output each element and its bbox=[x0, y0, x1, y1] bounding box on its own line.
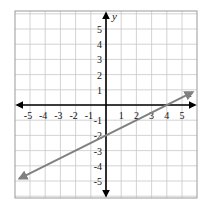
svg-text:5: 5 bbox=[97, 24, 102, 35]
svg-text:4: 4 bbox=[164, 110, 169, 121]
svg-text:1: 1 bbox=[97, 85, 102, 96]
svg-text:2: 2 bbox=[97, 70, 102, 81]
svg-text:-3: -3 bbox=[54, 110, 62, 121]
y-axis-label: y bbox=[111, 10, 117, 22]
svg-text:-1: -1 bbox=[85, 110, 93, 121]
svg-text:-5: -5 bbox=[24, 110, 32, 121]
svg-text:5: 5 bbox=[180, 110, 185, 121]
svg-text:4: 4 bbox=[97, 39, 102, 50]
svg-text:-3: -3 bbox=[94, 146, 102, 157]
svg-text:-4: -4 bbox=[94, 161, 102, 172]
svg-text:1: 1 bbox=[119, 110, 124, 121]
svg-text:-2: -2 bbox=[69, 110, 77, 121]
svg-text:-5: -5 bbox=[94, 176, 102, 187]
coordinate-plane: -5-4-3-2-11234554321-1-2-3-4-5 y x bbox=[0, 0, 204, 205]
svg-text:3: 3 bbox=[97, 54, 102, 65]
svg-text:-1: -1 bbox=[94, 115, 102, 126]
svg-text:-4: -4 bbox=[39, 110, 47, 121]
